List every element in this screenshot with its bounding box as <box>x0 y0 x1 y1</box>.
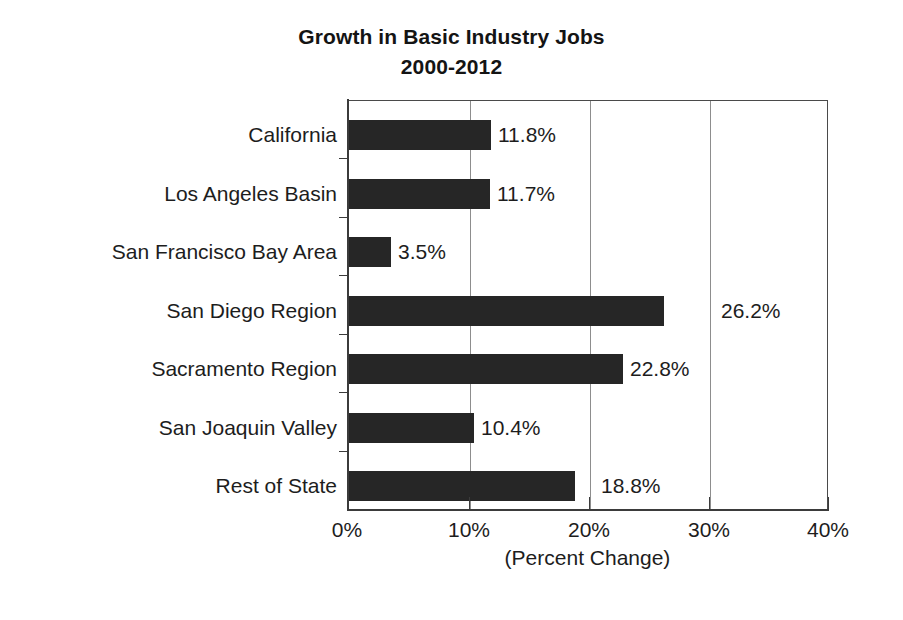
category-label-california: California <box>7 123 337 147</box>
value-label-san-francisco-bay-area: 3.5% <box>398 240 446 264</box>
category-label-san-diego-region: San Diego Region <box>7 299 337 323</box>
value-label-california: 11.8% <box>498 123 556 147</box>
chart-title: Growth in Basic Industry Jobs 2000-2012 <box>0 22 903 82</box>
category-label-los-angeles-basin: Los Angeles Basin <box>7 182 337 206</box>
value-label-rest-of-state: 18.8% <box>601 474 661 498</box>
x-axis-tick-label-0: 0% <box>302 518 392 542</box>
bar-california <box>349 120 491 150</box>
x-axis-tick-label-20: 20% <box>544 518 634 542</box>
chart-title-line-2: 2000-2012 <box>0 52 903 82</box>
category-label-san-joaquin-valley: San Joaquin Valley <box>7 416 337 440</box>
bar-sacramento-region <box>349 354 623 384</box>
y-axis-tick <box>339 275 348 276</box>
category-label-rest-of-state: Rest of State <box>7 474 337 498</box>
bar-los-angeles-basin <box>349 179 490 209</box>
value-label-los-angeles-basin: 11.7% <box>497 182 555 206</box>
x-axis-line <box>347 509 829 511</box>
x-axis-title: (Percent Change) <box>347 546 828 570</box>
bar-rest-of-state <box>349 471 575 501</box>
y-axis-tick <box>339 334 348 335</box>
value-label-san-joaquin-valley: 10.4% <box>481 416 541 440</box>
x-axis-tick <box>347 497 348 511</box>
x-axis-tick <box>828 497 829 511</box>
value-label-san-diego-region: 26.2% <box>721 299 781 323</box>
y-axis-tick <box>339 392 348 393</box>
bar-san-diego-region <box>349 296 664 326</box>
bar-san-joaquin-valley <box>349 413 474 443</box>
bar-san-francisco-bay-area <box>349 237 391 267</box>
category-label-sacramento-region: Sacramento Region <box>7 357 337 381</box>
x-axis-tick <box>709 497 710 511</box>
value-label-sacramento-region: 22.8% <box>630 357 690 381</box>
x-axis-tick-label-30: 30% <box>664 518 754 542</box>
x-axis-tick <box>589 497 590 511</box>
y-axis-tick <box>339 158 348 159</box>
category-label-san-francisco-bay-area: San Francisco Bay Area <box>7 240 337 264</box>
y-axis-tick <box>339 217 348 218</box>
x-axis-tick-label-10: 10% <box>424 518 514 542</box>
x-axis-tick-label-40: 40% <box>783 518 873 542</box>
gridline-30pct <box>710 101 711 509</box>
x-axis-tick <box>469 497 470 511</box>
chart-title-line-1: Growth in Basic Industry Jobs <box>0 22 903 52</box>
y-axis-tick <box>339 451 348 452</box>
